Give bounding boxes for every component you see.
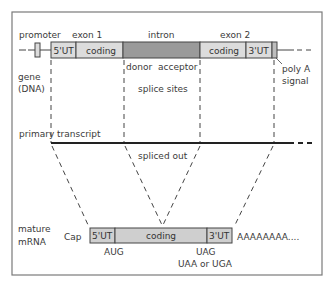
mrna-utr3-label: 3'UT	[209, 231, 230, 241]
start-codon-label: AUG	[104, 247, 124, 257]
intron-label: intron	[148, 30, 174, 40]
mature-mrna-label-1: mature	[18, 224, 51, 234]
acceptor-label: acceptor	[158, 62, 198, 72]
promoter-label: promoter	[19, 30, 61, 40]
splice-sites-label: splice sites	[138, 84, 188, 94]
mature-mrna-label-2: mRNA	[18, 237, 47, 247]
exon1-label: exon 1	[72, 30, 102, 40]
mrna-utr5-label: 5'UT	[92, 231, 113, 241]
gene-coding2-label: coding	[209, 46, 239, 56]
cap-label: Cap	[64, 232, 82, 242]
spliced-out-label: spliced out	[138, 151, 188, 161]
stop-codon-label-2: UAA or UGA	[178, 259, 233, 269]
gene-label-1: gene	[18, 72, 41, 82]
donor-label: donor	[126, 62, 152, 72]
mrna-coding-label: coding	[146, 231, 176, 241]
gene-label-2: (DNA)	[18, 84, 45, 94]
exon2-label: exon 2	[220, 30, 250, 40]
poly-a-label-1: poly A	[282, 64, 311, 74]
gene-coding1-label: coding	[86, 46, 116, 56]
intron-box	[123, 42, 200, 58]
poly-a-signal-box	[272, 42, 277, 58]
gene-utr3-label: 3'UT	[249, 46, 270, 56]
primary-transcript-label: primary transcript	[19, 129, 101, 139]
gene-utr5-label: 5'UT	[54, 46, 75, 56]
poly-a-tail: AAAAAAAA....	[237, 232, 299, 242]
stop-codon-label-1: UAG	[196, 247, 216, 257]
promoter-box	[35, 43, 40, 57]
poly-a-label-2: signal	[282, 76, 309, 86]
gene-expression-diagram: promoter exon 1 intron exon 2 5'UT codin…	[0, 0, 333, 285]
